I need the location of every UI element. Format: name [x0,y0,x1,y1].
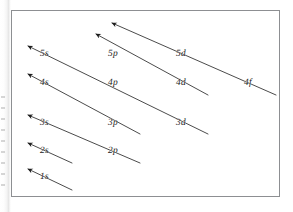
orbital-label-4p: 4p [108,77,118,87]
aufbau-diagram-screenshot: 1s2s2p3s3p3d4s4p4d4f5s5p5d [0,0,293,212]
orbital-label-5s: 5s [40,48,49,58]
arrow-1s [28,169,72,190]
orbital-label-2s: 2s [40,145,49,155]
orbital-label-2p: 2p [108,145,118,155]
orbital-label-3d: 3d [176,117,186,127]
orbital-label-5p: 5p [108,48,118,58]
orbital-label-3p: 3p [108,117,118,127]
arrow-2s [28,143,72,163]
orbital-label-4s: 4s [40,77,49,87]
orbital-label-4f: 4f [244,77,252,87]
orbital-label-5d: 5d [176,48,186,58]
orbital-label-4d: 4d [176,77,186,87]
orbital-label-3s: 3s [40,117,49,127]
orbital-label-1s: 1s [40,171,49,181]
